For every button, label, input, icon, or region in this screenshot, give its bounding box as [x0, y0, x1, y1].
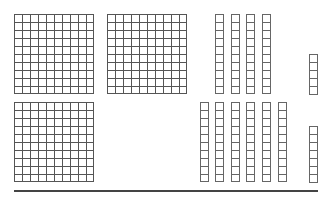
hundred-flat: [107, 14, 187, 94]
ten-rod: [262, 14, 271, 94]
ten-rod: [278, 102, 287, 182]
ten-rod: [262, 102, 271, 182]
ten-rod: [246, 102, 255, 182]
ones-units: [309, 54, 318, 95]
ten-rod: [215, 102, 224, 182]
ten-rod: [231, 14, 240, 94]
baseline-rule: [14, 190, 318, 192]
ten-rod: [246, 14, 255, 94]
hundred-flat: [14, 102, 94, 182]
hundred-flat: [14, 14, 94, 94]
ten-rod: [200, 102, 209, 182]
ten-rod: [215, 14, 224, 94]
ones-units: [309, 126, 318, 183]
ten-rod: [231, 102, 240, 182]
